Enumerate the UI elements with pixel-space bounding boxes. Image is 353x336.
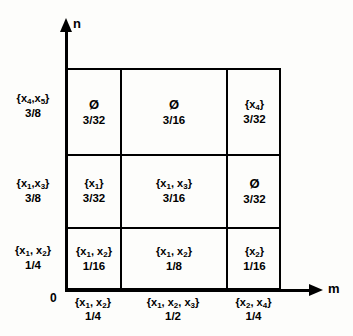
grid: Ø 3/32 Ø 3/16 {x4} 3/32 {x1} 3/32 {x1, x… bbox=[66, 68, 281, 290]
grid-cell-r2c2-set: {x2} bbox=[245, 245, 264, 259]
x-axis-label: m bbox=[328, 282, 340, 295]
row-label-top: {x4,x5} 3/8 bbox=[2, 92, 64, 120]
row-label-middle-set: {x1,x3} bbox=[2, 177, 64, 191]
row-label-top-value: 3/8 bbox=[2, 106, 64, 120]
column-label-middle: {x1, x2, x3} 1/2 bbox=[120, 295, 226, 324]
grid-cell-r0c1-value: 3/16 bbox=[163, 113, 185, 127]
column-label-left-set: {x1, x2} bbox=[66, 295, 120, 309]
row-label-middle-value: 3/8 bbox=[2, 191, 64, 205]
grid-cell-r0c0: Ø 3/32 bbox=[68, 70, 122, 156]
grid-cell-r1c0: {x1} 3/32 bbox=[68, 156, 122, 229]
column-label-left-value: 1/4 bbox=[66, 309, 120, 324]
grid-cell-r0c1-set: Ø bbox=[169, 97, 179, 113]
grid-cell-r0c2-value: 3/32 bbox=[243, 112, 265, 126]
set-value-grid-figure: n m 0 {x4,x5} 3/8 {x1,x3} 3/8 {x1, x2} 1… bbox=[0, 0, 353, 336]
grid-cell-r1c2-set: Ø bbox=[249, 176, 259, 192]
grid-cell-r2c1-set: {x1, x2} bbox=[156, 245, 192, 259]
column-label-right-value: 1/4 bbox=[226, 309, 281, 324]
grid-cell-r2c0-set: {x1, x2} bbox=[76, 245, 112, 259]
grid-cell-r2c2: {x2} 1/16 bbox=[228, 229, 281, 290]
row-label-bottom-set: {x1, x2} bbox=[2, 244, 64, 258]
row-label-middle: {x1,x3} 3/8 bbox=[2, 177, 64, 205]
grid-cell-r0c2-set: {x4} bbox=[245, 98, 264, 112]
grid-cell-r1c0-set: {x1} bbox=[84, 177, 103, 191]
column-label-left: {x1, x2} 1/4 bbox=[66, 295, 120, 324]
grid-cell-r1c2: Ø 3/32 bbox=[228, 156, 281, 229]
grid-cell-r1c1-value: 3/16 bbox=[163, 191, 185, 205]
column-label-middle-value: 1/2 bbox=[120, 309, 226, 324]
origin-label: 0 bbox=[50, 292, 57, 304]
x-axis-arrow-icon bbox=[309, 284, 323, 296]
grid-cell-r2c2-value: 1/16 bbox=[243, 259, 265, 273]
grid-cell-r1c1: {x1, x3} 3/16 bbox=[122, 156, 228, 229]
column-label-middle-set: {x1, x2, x3} bbox=[120, 295, 226, 309]
grid-cell-r1c0-value: 3/32 bbox=[83, 191, 105, 205]
grid-cell-r2c0-value: 1/16 bbox=[83, 259, 105, 273]
grid-cell-r0c1: Ø 3/16 bbox=[122, 70, 228, 156]
grid-cell-r0c0-value: 3/32 bbox=[83, 113, 105, 127]
grid-cell-r1c2-value: 3/32 bbox=[243, 192, 265, 206]
y-axis-label: n bbox=[73, 17, 81, 30]
grid-cell-r2c1: {x1, x2} 1/8 bbox=[122, 229, 228, 290]
grid-cell-r0c2: {x4} 3/32 bbox=[228, 70, 281, 156]
grid-cell-r1c1-set: {x1, x3} bbox=[156, 177, 192, 191]
column-label-right-set: {x2, x4} bbox=[226, 295, 281, 309]
row-label-bottom-value: 1/4 bbox=[2, 258, 64, 272]
column-label-right: {x2, x4} 1/4 bbox=[226, 295, 281, 324]
row-label-bottom: {x1, x2} 1/4 bbox=[2, 244, 64, 272]
grid-cell-r2c1-value: 1/8 bbox=[166, 259, 182, 273]
grid-cell-r0c0-set: Ø bbox=[89, 97, 99, 113]
y-axis-arrow-icon bbox=[60, 18, 72, 32]
grid-cell-r2c0: {x1, x2} 1/16 bbox=[68, 229, 122, 290]
row-label-top-set: {x4,x5} bbox=[2, 92, 64, 106]
